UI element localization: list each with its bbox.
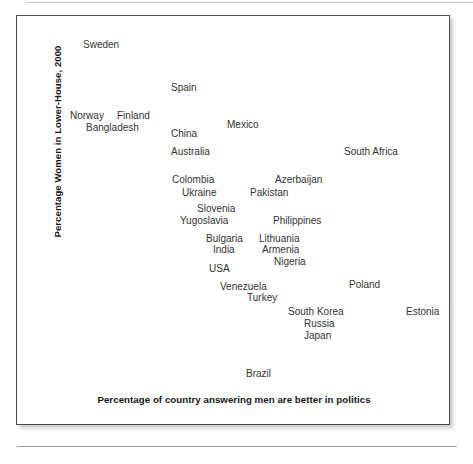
scatter-point-label: Azerbaijan: [275, 174, 322, 185]
scatter-point-label: India: [213, 244, 235, 255]
scatter-point-label: Philippines: [273, 215, 321, 226]
scatter-point-label: Yugoslavia: [180, 215, 228, 226]
scatter-point-label: South Korea: [288, 306, 344, 317]
scatter-point-label: Colombia: [172, 174, 214, 185]
scatter-point-label: Ukraine: [182, 187, 216, 198]
scatter-point-label: Spain: [171, 82, 197, 93]
scatter-point-label: Bangladesh: [86, 122, 139, 133]
x-axis-title: Percentage of country answering men are …: [17, 394, 451, 405]
scatter-point-label: Venezuela: [220, 281, 267, 292]
scatter-point-label: Pakistan: [250, 187, 288, 198]
figure-frame: Percentage Women in Lower-House, 2000 Sw…: [16, 15, 450, 425]
scatter-point-label: Nigeria: [274, 256, 306, 267]
plot-area: SwedenSpainNorwayFinlandBangladeshChinaM…: [17, 16, 451, 426]
scatter-point-label: South Africa: [344, 146, 398, 157]
scatter-point-label: Russia: [304, 318, 335, 329]
scatter-point-label: Brazil: [246, 368, 271, 379]
scatter-point-label: China: [171, 128, 197, 139]
scatter-point-label: Sweden: [83, 39, 119, 50]
scatter-point-label: Australia: [171, 146, 210, 157]
scatter-point-label: Poland: [349, 279, 380, 290]
scatter-point-label: Slovenia: [197, 203, 235, 214]
scatter-point-label: Armenia: [262, 244, 299, 255]
scatter-point-label: USA: [209, 263, 230, 274]
scatter-point-label: Japan: [304, 330, 331, 341]
scatter-point-label: Lithuania: [259, 233, 300, 244]
scatter-point-label: Bulgaria: [206, 233, 243, 244]
scatter-point-label: Estonia: [406, 306, 439, 317]
scatter-point-label: Turkey: [247, 292, 277, 303]
scatter-point-label: Finland: [117, 110, 150, 121]
page-rule-top: [26, 2, 473, 3]
page-rule-bottom: [17, 446, 457, 447]
scatter-point-label: Mexico: [227, 119, 259, 130]
scatter-point-label: Norway: [70, 110, 104, 121]
